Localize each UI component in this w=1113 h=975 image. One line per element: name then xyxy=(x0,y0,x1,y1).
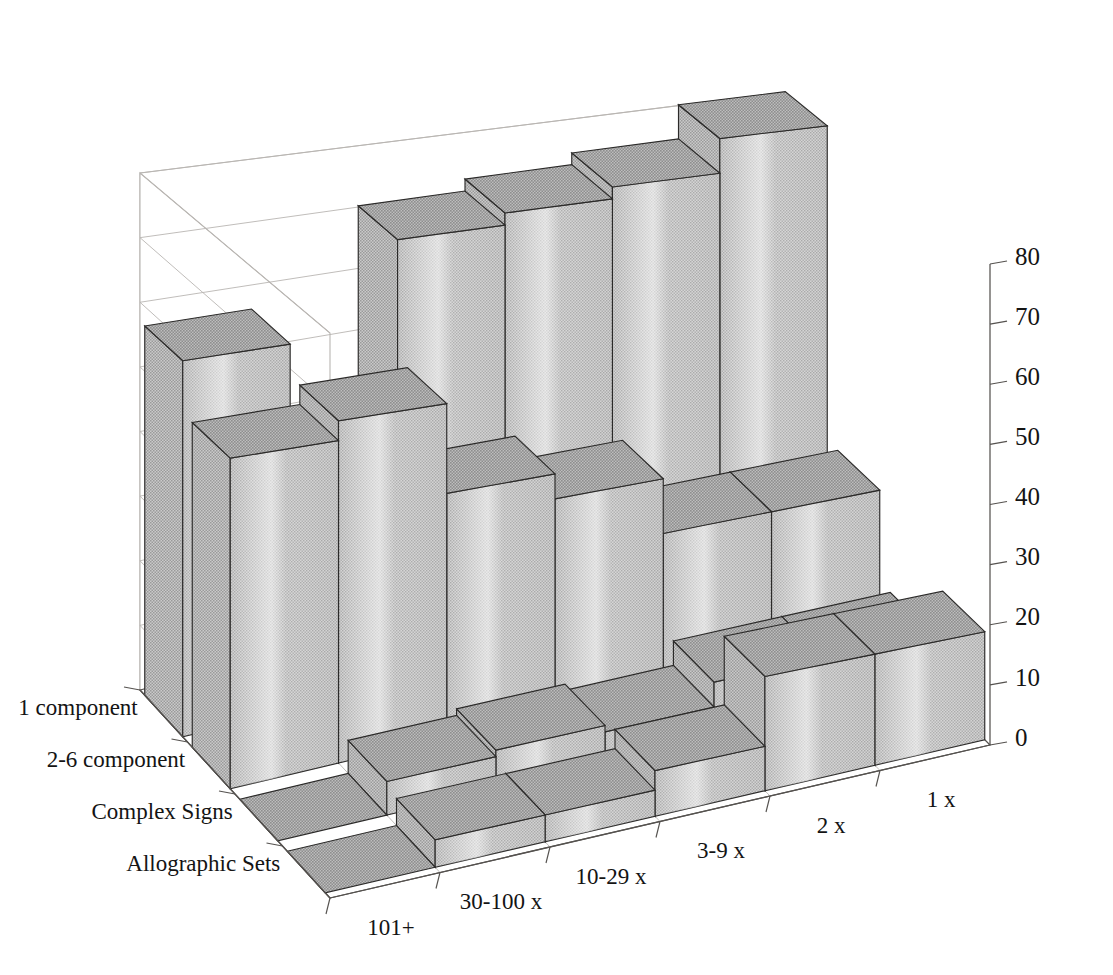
z-tick-label: 40 xyxy=(1015,483,1040,510)
bar-left-face xyxy=(192,422,230,788)
three-d-bar-chart: 01020304050607080101+30-100 x10-29 x3-9 … xyxy=(0,0,1113,975)
y-series-label: Allographic Sets xyxy=(126,851,280,876)
z-tick-label: 70 xyxy=(1015,303,1040,330)
x-tick xyxy=(326,898,330,914)
z-tick xyxy=(990,742,1007,745)
z-tick xyxy=(990,441,1007,444)
y-tick xyxy=(124,687,140,690)
x-category-label: 1 x xyxy=(927,787,956,812)
x-tick xyxy=(656,822,660,838)
y-series-label: 2-6 component xyxy=(47,747,186,772)
x-tick xyxy=(436,873,440,889)
z-tick xyxy=(990,502,1007,505)
x-category-label: 3-9 x xyxy=(697,838,745,863)
bar-1-0 xyxy=(192,405,338,789)
bar-front-sheen xyxy=(230,441,338,789)
z-tick xyxy=(990,682,1007,685)
z-tick-label: 10 xyxy=(1015,664,1040,691)
x-tick xyxy=(876,771,880,787)
z-tick-label: 20 xyxy=(1015,603,1040,630)
z-tick-label: 50 xyxy=(1015,423,1040,450)
bar-left-face xyxy=(145,326,183,737)
z-tick-label: 60 xyxy=(1015,363,1040,390)
x-tick xyxy=(766,796,770,812)
z-tick xyxy=(990,622,1007,625)
y-series-label: Complex Signs xyxy=(92,799,233,824)
x-category-label: 10-29 x xyxy=(576,864,647,889)
x-category-label: 30-100 x xyxy=(460,889,543,914)
z-tick-label: 80 xyxy=(1015,243,1040,270)
z-tick xyxy=(990,562,1007,565)
bar-front-sheen xyxy=(339,404,447,763)
z-tick xyxy=(990,261,1007,264)
z-tick xyxy=(990,321,1007,324)
chart-root: 01020304050607080101+30-100 x10-29 x3-9 … xyxy=(0,0,1113,975)
x-category-label: 2 x xyxy=(817,813,846,838)
y-series-label: 1 component xyxy=(18,695,138,720)
x-tick xyxy=(546,847,550,863)
x-category-label: 101+ xyxy=(367,915,414,940)
z-tick-label: 30 xyxy=(1015,543,1040,570)
z-tick-label: 0 xyxy=(1015,724,1028,751)
z-tick xyxy=(990,381,1007,384)
